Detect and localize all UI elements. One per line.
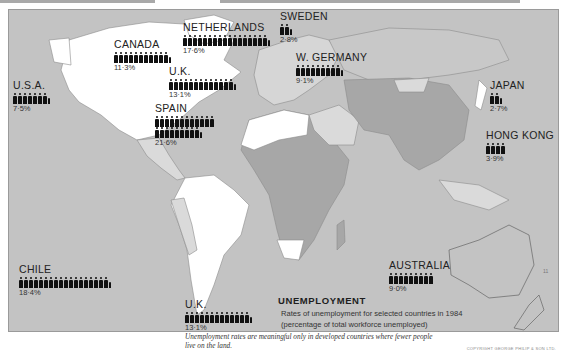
person-icon xyxy=(389,273,393,284)
person-icon xyxy=(235,312,239,323)
person-icon xyxy=(224,79,228,90)
person-icon xyxy=(119,52,123,63)
person-icon xyxy=(179,79,183,90)
figure-bar xyxy=(19,277,112,288)
country-rate: 2·7% xyxy=(490,105,525,113)
person-icon xyxy=(245,312,249,323)
country-name: JAPAN xyxy=(490,80,525,91)
country-rate: 7·5% xyxy=(13,105,51,113)
page-edge-bar-left xyxy=(0,0,155,3)
person-icon xyxy=(94,277,98,288)
person-icon xyxy=(280,24,284,35)
person-icon xyxy=(220,312,224,323)
person-icon xyxy=(225,312,229,323)
person-icon xyxy=(189,79,193,90)
person-icon xyxy=(321,65,325,76)
person-icon xyxy=(210,116,214,127)
person-icon xyxy=(285,24,289,35)
person-icon xyxy=(486,143,490,154)
country-label-hong-kong: HONG KONG 3·9% xyxy=(486,130,554,162)
country-name: AUSTRALIA xyxy=(389,260,450,271)
figure-bar xyxy=(13,93,51,104)
country-rate: 13·1% xyxy=(169,91,237,99)
person-icon xyxy=(195,116,199,127)
person-icon xyxy=(44,277,48,288)
person-icon xyxy=(193,35,197,46)
description-line-1: Rates of unemployment for selected count… xyxy=(281,308,561,319)
person-icon xyxy=(209,79,213,90)
partial-person-icon xyxy=(500,93,502,104)
person-icon xyxy=(188,35,192,46)
person-icon xyxy=(174,79,178,90)
partial-person-icon xyxy=(200,127,202,138)
person-icon xyxy=(24,277,28,288)
country-label-netherlands: NETHERLANDS 17·6% xyxy=(183,22,271,54)
page-edge-bar-right xyxy=(220,0,520,3)
south-america xyxy=(171,175,249,315)
country-name: W. GERMANY xyxy=(296,52,367,63)
southern-africa xyxy=(277,240,304,260)
person-icon xyxy=(175,116,179,127)
person-icon xyxy=(38,93,42,104)
person-icon xyxy=(205,116,209,127)
person-icon xyxy=(185,127,189,138)
person-icon xyxy=(74,277,78,288)
country-name: U.K. xyxy=(169,66,237,77)
person-icon xyxy=(258,35,262,46)
person-icon xyxy=(404,273,408,284)
person-icon xyxy=(194,79,198,90)
person-icon xyxy=(228,35,232,46)
person-icon xyxy=(253,35,257,46)
figure-bar xyxy=(389,273,450,284)
alaska xyxy=(49,38,71,65)
person-icon xyxy=(139,52,143,63)
person-icon xyxy=(190,116,194,127)
person-icon xyxy=(134,52,138,63)
person-icon xyxy=(214,79,218,90)
person-icon xyxy=(190,127,194,138)
figure-bar xyxy=(185,312,253,323)
person-icon xyxy=(170,127,174,138)
person-icon xyxy=(219,79,223,90)
person-icon xyxy=(190,312,194,323)
person-icon xyxy=(215,312,219,323)
person-icon xyxy=(296,65,300,76)
footnote-line-1: Unemployment rates are meaningful only i… xyxy=(185,332,455,341)
person-icon xyxy=(240,312,244,323)
person-icon xyxy=(18,93,22,104)
country-label-west-germany: W. GERMANY 9·1% xyxy=(296,52,367,84)
country-rate: 3·9% xyxy=(486,155,554,163)
person-icon xyxy=(13,93,17,104)
person-icon xyxy=(184,79,188,90)
person-icon xyxy=(263,35,267,46)
partial-person-icon xyxy=(234,79,236,90)
partial-person-icon xyxy=(48,93,50,104)
person-icon xyxy=(495,93,499,104)
person-icon xyxy=(409,273,413,284)
person-icon xyxy=(155,127,159,138)
person-icon xyxy=(195,127,199,138)
person-icon xyxy=(229,79,233,90)
figure-bar xyxy=(280,24,328,35)
map-footnote: Unemployment rates are meaningful only i… xyxy=(185,332,455,350)
country-name: SWEDEN xyxy=(280,11,328,22)
person-icon xyxy=(205,312,209,323)
person-icon xyxy=(185,116,189,127)
map-description: Rates of unemployment for selected count… xyxy=(281,308,561,330)
footnote-line-2: live on the land. xyxy=(185,341,455,350)
person-icon xyxy=(230,312,234,323)
country-rate: 9·1% xyxy=(296,77,367,85)
person-icon xyxy=(223,35,227,46)
japan xyxy=(475,80,487,110)
person-icon xyxy=(213,35,217,46)
person-icon xyxy=(159,52,163,63)
person-icon xyxy=(33,93,37,104)
country-rate: 9·0% xyxy=(389,285,450,293)
partial-person-icon xyxy=(268,35,270,46)
country-label-usa: U.S.A. 7·5% xyxy=(13,80,51,112)
figure-bar xyxy=(114,52,172,63)
country-rate: 21·6% xyxy=(155,139,215,147)
person-icon xyxy=(243,35,247,46)
page-marker: 11 xyxy=(543,268,548,274)
partial-person-icon xyxy=(169,52,171,63)
